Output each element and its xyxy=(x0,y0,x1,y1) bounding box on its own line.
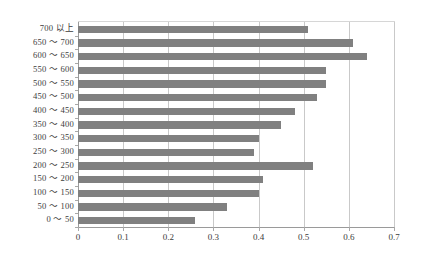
category-label: 400 ～ 450 xyxy=(0,104,74,118)
x-axis-tick xyxy=(349,227,350,231)
category-label: 200 ～ 250 xyxy=(0,159,74,173)
bar-row xyxy=(78,186,394,200)
bar-rows xyxy=(78,22,394,227)
category-label: 0 ～ 50 xyxy=(0,213,74,227)
category-label: 450 ～ 500 xyxy=(0,90,74,104)
bar xyxy=(78,162,313,169)
bar xyxy=(78,39,353,46)
x-axis-tick-label: 0.4 xyxy=(253,232,264,242)
x-axis-tick-label: 0 xyxy=(76,232,81,242)
category-label: 150 ～ 200 xyxy=(0,172,74,186)
bar xyxy=(78,217,195,224)
x-axis-tick xyxy=(213,227,214,231)
x-axis-tick-label: 0.6 xyxy=(343,232,354,242)
x-axis-tick xyxy=(304,227,305,231)
category-label: 50 ～ 100 xyxy=(0,200,74,214)
category-axis-labels: 700 以上650 ～ 700600 ～ 650550 ～ 600500 ～ 5… xyxy=(0,22,74,227)
plot-area xyxy=(78,22,394,227)
bar-row xyxy=(78,200,394,214)
bar-row xyxy=(78,131,394,145)
x-axis-tick xyxy=(123,227,124,231)
category-label: 250 ～ 300 xyxy=(0,145,74,159)
bar-row xyxy=(78,90,394,104)
category-label: 600 ～ 650 xyxy=(0,49,74,63)
bar-row xyxy=(78,36,394,50)
bar-row xyxy=(78,104,394,118)
bar xyxy=(78,135,259,142)
category-label: 500 ～ 550 xyxy=(0,77,74,91)
bar xyxy=(78,53,367,60)
category-label: 650 ～ 700 xyxy=(0,36,74,50)
x-axis-tick-label: 0.1 xyxy=(118,232,129,242)
category-label: 350 ～ 400 xyxy=(0,118,74,132)
x-axis-tick-label: 0.5 xyxy=(298,232,309,242)
bar-row xyxy=(78,172,394,186)
bar xyxy=(78,121,281,128)
category-axis-tick xyxy=(75,227,78,228)
category-label: 300 ～ 350 xyxy=(0,131,74,145)
bar xyxy=(78,80,326,87)
bar xyxy=(78,203,227,210)
bar xyxy=(78,108,295,115)
bar xyxy=(78,94,317,101)
x-axis-tick-label: 0.3 xyxy=(208,232,219,242)
category-label: 550 ～ 600 xyxy=(0,63,74,77)
x-axis-tick-labels: 00.10.20.30.40.50.60.7 xyxy=(78,232,394,248)
bar xyxy=(78,190,259,197)
x-axis-tick-label: 0.2 xyxy=(163,232,174,242)
x-axis-tick xyxy=(259,227,260,231)
category-label: 700 以上 xyxy=(0,22,74,36)
bar-row xyxy=(78,63,394,77)
x-axis-tick-label: 0.7 xyxy=(388,232,399,242)
bar-row xyxy=(78,159,394,173)
bar-row xyxy=(78,77,394,91)
bar xyxy=(78,26,308,33)
bar xyxy=(78,149,254,156)
category-label: 100 ～ 150 xyxy=(0,186,74,200)
x-axis-tick xyxy=(394,227,395,231)
bar-row xyxy=(78,145,394,159)
bar-row xyxy=(78,118,394,132)
bar-row xyxy=(78,213,394,227)
gridline xyxy=(394,22,395,227)
bar-chart: 700 以上650 ～ 700600 ～ 650550 ～ 600500 ～ 5… xyxy=(0,0,425,261)
x-axis-line xyxy=(78,227,395,228)
x-axis-tick xyxy=(168,227,169,231)
bar-row xyxy=(78,49,394,63)
bar-row xyxy=(78,22,394,36)
x-axis-tick xyxy=(78,227,79,231)
bar xyxy=(78,176,263,183)
bar xyxy=(78,67,326,74)
